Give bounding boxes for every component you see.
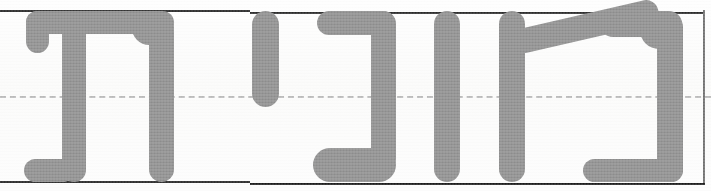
hebrew-word-glyphs: [0, 0, 711, 191]
worksheet-scan: תינוה: [0, 0, 711, 191]
